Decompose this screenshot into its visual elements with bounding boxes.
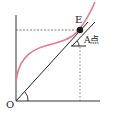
angle-arc-a <box>77 41 79 46</box>
origin-line <box>16 22 88 101</box>
point-a-label: A点 <box>83 35 100 45</box>
angle-arc-origin <box>25 92 28 101</box>
graph-diagram: E A点 O <box>0 0 115 118</box>
point-e-marker <box>77 27 83 33</box>
point-e-label: E <box>75 14 82 25</box>
origin-label: O <box>6 99 14 110</box>
